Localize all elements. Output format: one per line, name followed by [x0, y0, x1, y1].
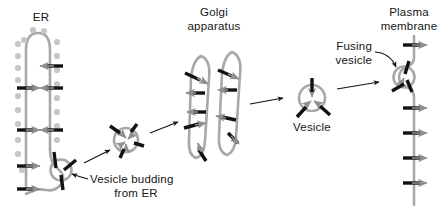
- plasma-membrane-label-line1: Plasma: [389, 6, 429, 18]
- golgi-label-line2: apparatus: [188, 20, 241, 32]
- er-label: ER: [33, 11, 49, 23]
- golgi-label-line1: Golgi: [200, 6, 228, 18]
- diagram-canvas: ER: [0, 0, 446, 213]
- fusing-vesicle-label-line1: Fusing: [336, 40, 372, 52]
- vesicle-budding-caption-line2: from ER: [114, 187, 158, 199]
- vesicle-budding-caption-line1: Vesicle budding: [90, 173, 174, 185]
- plasma-membrane-label-line2: membrane: [381, 20, 438, 32]
- fusing-vesicle-label-line2: vesicle: [335, 54, 372, 66]
- vesicle-label: Vesicle: [293, 121, 331, 133]
